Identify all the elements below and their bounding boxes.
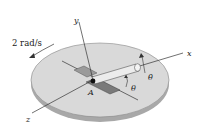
theta-label: θ	[131, 84, 136, 93]
theta-dot-label: θ̇	[148, 73, 153, 82]
angular-velocity-label: 2 rad/s	[12, 38, 42, 48]
x-axis-label: x	[187, 49, 192, 58]
point-a-label: A	[87, 88, 94, 97]
rotation-arrowhead	[29, 53, 35, 58]
rotating-disk-diagram: 2 rad/s y x z A θ θ̇	[0, 0, 207, 135]
z-axis-label: z	[25, 115, 31, 124]
rod-end	[135, 64, 141, 72]
y-axis-label: y	[73, 16, 79, 25]
pivot-point-a	[91, 79, 96, 84]
